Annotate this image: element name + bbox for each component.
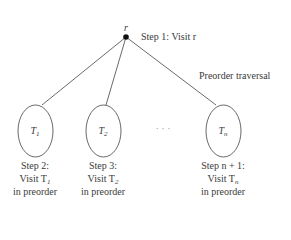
subtree-t2-label: T2 bbox=[98, 125, 107, 137]
root-label: r bbox=[124, 22, 128, 34]
step-n-caption: Step n + 1: Visit Tn in preorder bbox=[201, 159, 245, 198]
subtree-tn-label: Tn bbox=[218, 125, 227, 137]
step-2-caption: Step 2: Visit T1 in preorder bbox=[13, 159, 57, 198]
edge-root-t1 bbox=[42, 37, 126, 105]
step-1-text: Step 1: Visit r bbox=[141, 31, 196, 42]
step-1-label: Step 1: Visit r bbox=[141, 31, 196, 43]
diagram-title: Preorder traversal bbox=[199, 70, 270, 82]
step-3-caption: Step 3: Visit T2 in preorder bbox=[81, 159, 125, 198]
edge-root-t2 bbox=[106, 37, 126, 105]
ellipsis: · · · bbox=[156, 123, 171, 135]
subtree-t1-label: T1 bbox=[30, 125, 39, 137]
root-node bbox=[123, 34, 129, 40]
